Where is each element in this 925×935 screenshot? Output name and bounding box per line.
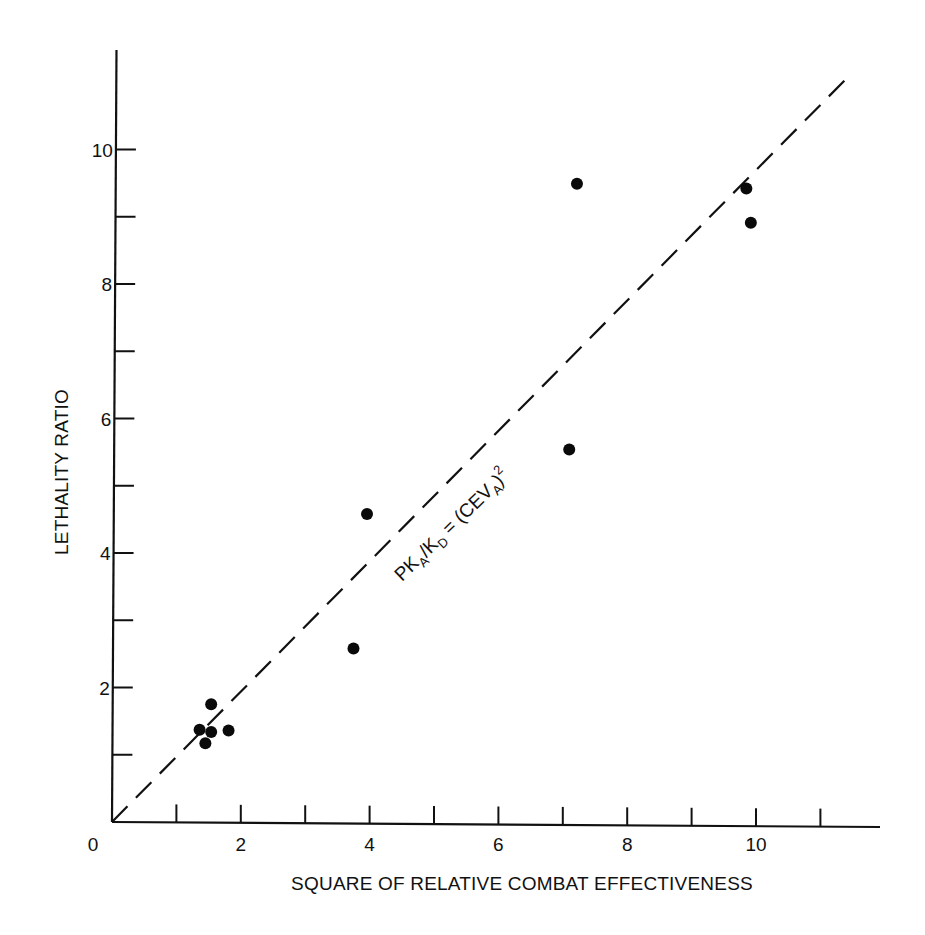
y-tick-label: 10 (92, 140, 113, 161)
x-tick-label: 10 (745, 834, 766, 855)
data-point (563, 443, 575, 455)
theory-dashed-line (112, 79, 846, 822)
x-tick-label: 8 (622, 834, 633, 855)
scatter-chart: 0246810 246810 SQUARE OF RELATIVE COMBAT… (0, 0, 925, 935)
y-tick-label: 8 (102, 274, 113, 295)
data-point (205, 698, 217, 710)
y-tick-label: 6 (101, 409, 112, 430)
x-axis-title: SQUARE OF RELATIVE COMBAT EFFECTIVENESS (291, 873, 753, 894)
y-axis (112, 50, 117, 822)
y-axis-tick-labels: 246810 (92, 140, 113, 699)
data-point (361, 508, 373, 520)
data-point (740, 183, 752, 195)
data-point (745, 217, 757, 229)
eq-cev: = (CEV (434, 480, 497, 542)
y-tick-label: 2 (99, 678, 110, 699)
x-tick-label: 6 (493, 834, 504, 855)
y-axis-title: LETHALITY RATIO (51, 389, 72, 555)
data-points (194, 178, 757, 750)
x-axis (112, 822, 880, 827)
x-axis-tick-labels: 0246810 (88, 834, 767, 855)
y-tick-label: 4 (100, 543, 111, 564)
data-point (205, 726, 217, 738)
x-tick-label: 4 (364, 834, 375, 855)
x-tick-label: 2 (236, 834, 247, 855)
data-point (194, 724, 206, 736)
data-point (571, 178, 583, 190)
data-point (223, 725, 235, 737)
data-point (348, 642, 360, 654)
data-point (199, 737, 211, 749)
x-tick-label: 0 (88, 834, 99, 855)
